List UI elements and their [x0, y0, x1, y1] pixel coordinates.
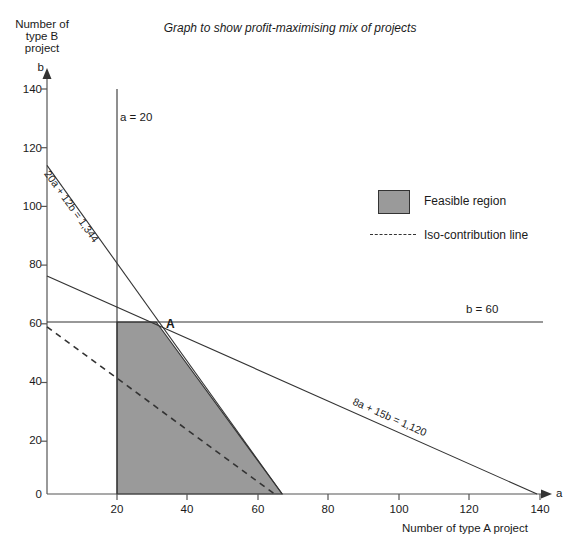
constraint-label-b-equals-60: b = 60	[466, 303, 498, 315]
constraint-label-a-equals-20: a = 20	[120, 111, 152, 123]
plot-area	[0, 0, 574, 542]
x-axis-arrow-icon	[541, 490, 552, 499]
optimal-point-a-label: A	[166, 317, 175, 331]
x-tick-marks	[117, 494, 540, 500]
legend-iso-line-label: Iso-contribution line	[424, 228, 528, 242]
legend-feasible-region-swatch	[378, 190, 410, 214]
feasible-region-polygon	[117, 322, 282, 494]
chart-container: Graph to show profit-maximising mix of p…	[0, 0, 574, 542]
y-tick-marks	[41, 89, 47, 441]
legend-iso-line-sample	[370, 234, 416, 235]
legend-feasible-region-label: Feasible region	[424, 194, 506, 208]
y-axis-arrow-icon	[43, 68, 52, 79]
